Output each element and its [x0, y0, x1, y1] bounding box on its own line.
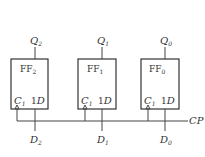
flip-flop-register-diagram: CP Q2 FF2 C1 1D D2 Q1 FF1 C1 1D D1 Q0 FF… [0, 0, 205, 157]
d0-label: D0 [159, 134, 172, 146]
d1-label: D1 [96, 134, 109, 146]
q2-label: Q2 [30, 35, 42, 47]
ff2-d-pin-label: 1D [31, 95, 45, 106]
clock-label: CP [189, 115, 204, 126]
flip-flop-0: Q0 FF0 C1 1D D0 [141, 35, 179, 146]
flip-flop-2: Q2 FF2 C1 1D D2 [11, 35, 48, 146]
flip-flop-1: Q1 FF1 C1 1D D1 [78, 35, 116, 146]
ff0-d-pin-label: 1D [161, 95, 175, 106]
q0-label: Q0 [160, 35, 172, 47]
d2-label: D2 [29, 134, 42, 146]
ff1-d-pin-label: 1D [98, 95, 112, 106]
q1-label: Q1 [97, 35, 109, 47]
